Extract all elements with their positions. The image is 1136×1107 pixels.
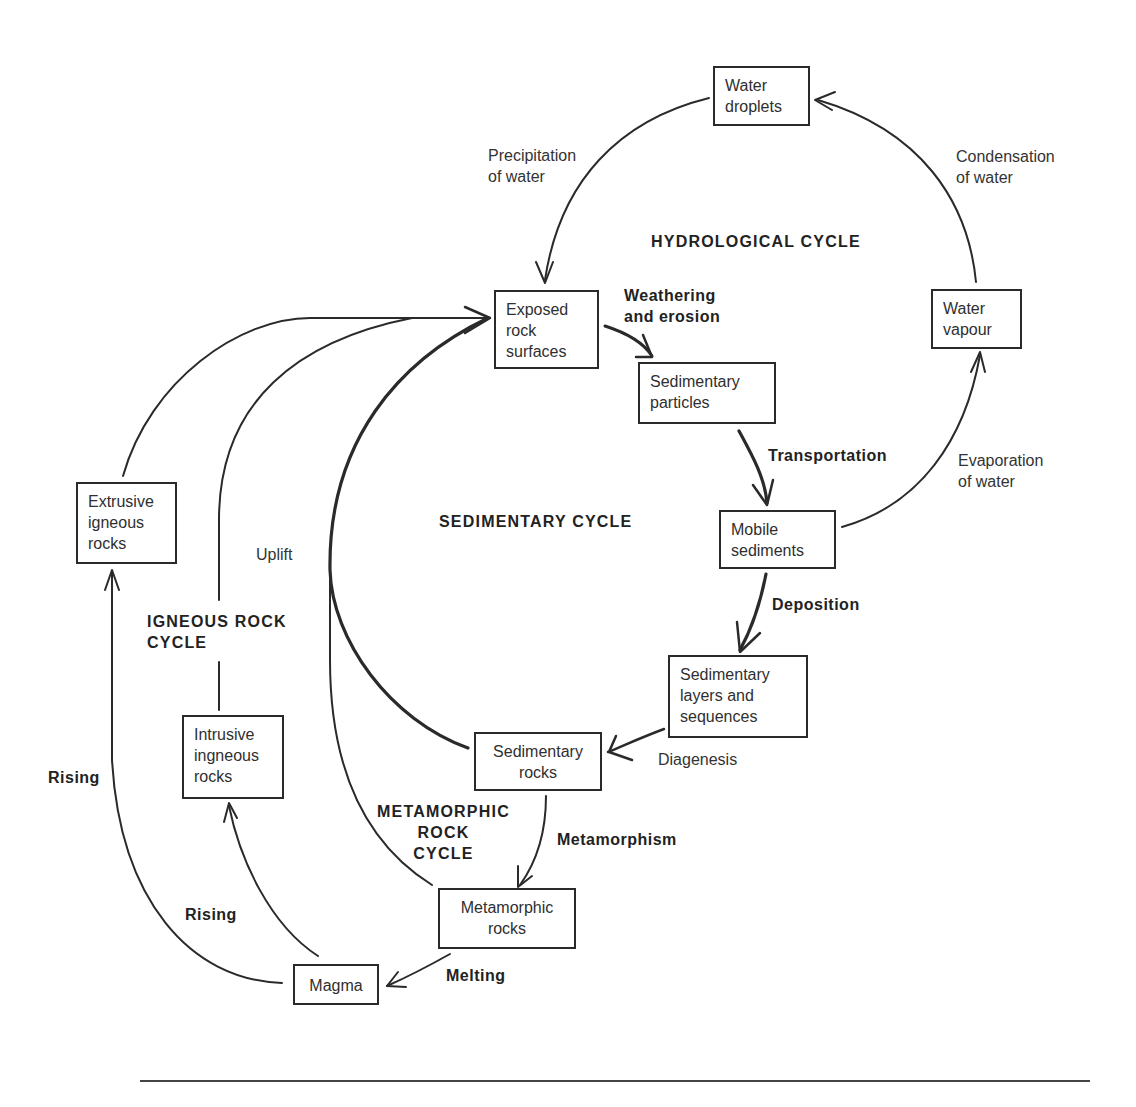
- arrow-intrusive-uplift-upper: [219, 318, 412, 600]
- arrow-metamorphism: [520, 796, 546, 885]
- arrow-precipitation: [545, 98, 709, 280]
- arrowhead-condensation: [815, 92, 835, 110]
- node-sedimentary-rocks: Sedimentary rocks: [474, 732, 602, 791]
- arrow-evaporation: [842, 355, 980, 527]
- arrowhead-deposition: [737, 622, 760, 652]
- node-extrusive-igneous-rocks: Extrusive igneous rocks: [76, 482, 177, 564]
- bottom-divider-rule: [140, 1080, 1090, 1082]
- label-condensation: Condensation of water: [956, 146, 1055, 188]
- label-uplift: Uplift: [256, 544, 292, 565]
- label-melting: Melting: [446, 965, 506, 986]
- arrow-transportation: [739, 431, 767, 503]
- label-metamorphism: Metamorphism: [557, 829, 677, 850]
- label-transportation: Transportation: [768, 445, 887, 466]
- node-sedimentary-particles: Sedimentary particles: [638, 362, 776, 424]
- label-evaporation: Evaporation of water: [958, 450, 1043, 492]
- node-magma: Magma: [293, 964, 379, 1005]
- title-hydrological-cycle: HYDROLOGICAL CYCLE: [651, 231, 861, 252]
- title-igneous-rock-cycle: IGNEOUS ROCK CYCLE: [147, 611, 287, 653]
- arrow-rising-intrusive: [229, 806, 318, 956]
- rock-cycle-diagram: Water droplets Water vapour Exposed rock…: [0, 0, 1136, 1107]
- arrow-condensation: [818, 100, 976, 282]
- label-deposition: Deposition: [772, 594, 860, 615]
- node-intrusive-igneous-rocks: Intrusive ingneous rocks: [182, 715, 284, 799]
- title-sedimentary-cycle: SEDIMENTARY CYCLE: [439, 511, 632, 532]
- node-exposed-rock-surfaces: Exposed rock surfaces: [494, 290, 599, 369]
- arrow-extrusive-uplift: [123, 318, 488, 476]
- title-metamorphic-rock-cycle: METAMORPHIC ROCK CYCLE: [377, 801, 510, 864]
- arrow-melting: [387, 954, 450, 986]
- node-water-droplets: Water droplets: [713, 66, 810, 126]
- arrow-diagenesis: [608, 729, 664, 752]
- arrow-sedimentary-uplift: [330, 318, 488, 748]
- node-metamorphic-rocks: Metamorphic rocks: [438, 888, 576, 949]
- node-sedimentary-layers: Sedimentary layers and sequences: [668, 655, 808, 738]
- arrowhead-precipitation: [536, 262, 553, 283]
- label-precipitation: Precipitation of water: [488, 145, 576, 187]
- label-rising-inner: Rising: [185, 904, 237, 925]
- node-water-vapour: Water vapour: [931, 289, 1022, 349]
- label-weathering-erosion: Weathering and erosion: [624, 285, 720, 327]
- label-rising-outer: Rising: [48, 767, 100, 788]
- node-mobile-sediments: Mobile sediments: [719, 510, 836, 569]
- label-diagenesis: Diagenesis: [658, 749, 737, 770]
